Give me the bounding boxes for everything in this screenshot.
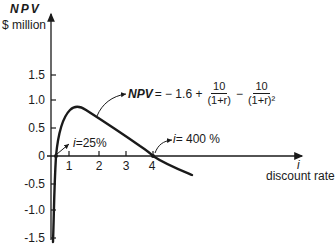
x-axis-title: discount rate bbox=[266, 169, 335, 183]
equation-minus: − bbox=[236, 87, 243, 101]
y-tick-label: -0.5 bbox=[5, 177, 45, 191]
x-tick-label: 2 bbox=[92, 159, 106, 173]
equation-fraction-1: 10 (1+r) bbox=[205, 80, 233, 107]
fraction-numerator: 10 bbox=[211, 80, 227, 94]
x-ticks bbox=[69, 151, 153, 156]
arrow-400-percent bbox=[155, 140, 172, 153]
annotation-text: =25% bbox=[76, 136, 107, 150]
y-tick-label: 0 bbox=[5, 149, 45, 163]
equation-constant: = − 1.6 + bbox=[155, 87, 203, 101]
npv-equation: NPV = − 1.6 + 10 (1+r) − 10 (1+r)² bbox=[128, 80, 280, 107]
x-tick-label: 1 bbox=[62, 159, 76, 173]
annotation-irr-400: i= 400 % bbox=[173, 132, 220, 146]
irr-point-25 bbox=[54, 154, 58, 158]
fraction-numerator: 10 bbox=[253, 80, 269, 94]
y-tick-label: 1.5 bbox=[5, 68, 45, 82]
npv-curve bbox=[53, 107, 192, 242]
y-tick-label: -1.5 bbox=[5, 231, 45, 245]
fraction-denominator: (1+r)² bbox=[246, 94, 277, 107]
arrow-equation bbox=[97, 94, 126, 116]
y-tick-label: 0.5 bbox=[5, 121, 45, 135]
y-tick-label: -1.0 bbox=[5, 203, 45, 217]
x-tick-label: 3 bbox=[119, 159, 133, 173]
fraction-denominator: (1+r) bbox=[205, 94, 233, 107]
y-tick-label: 1.0 bbox=[5, 93, 45, 107]
equation-fraction-2: 10 (1+r)² bbox=[246, 80, 277, 107]
annotation-irr-25: i=25% bbox=[73, 136, 107, 150]
y-axis-unit: $ million bbox=[2, 18, 46, 32]
x-tick-label: 4 bbox=[145, 159, 159, 173]
arrow-25-percent bbox=[57, 144, 69, 154]
y-axis-title: NPV bbox=[10, 2, 41, 16]
equation-lhs: NPV bbox=[128, 87, 153, 101]
annotation-text: = 400 % bbox=[176, 132, 220, 146]
irr-point-400 bbox=[151, 154, 155, 158]
